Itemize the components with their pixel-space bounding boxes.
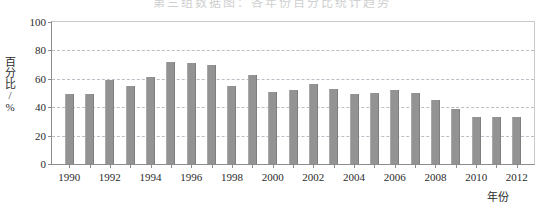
bar	[492, 117, 501, 164]
x-tick-mark	[212, 164, 213, 168]
y-tick-label: 100	[30, 16, 47, 28]
x-tick-mark	[313, 164, 314, 168]
x-tick-mark	[151, 164, 152, 168]
x-tick-mark	[415, 164, 416, 168]
x-tick-mark	[171, 164, 172, 168]
bar	[370, 93, 379, 164]
bar	[248, 75, 257, 164]
x-tick-label: 2012	[506, 171, 528, 183]
x-tick-mark	[273, 164, 274, 168]
x-tick-label: 1998	[221, 171, 243, 183]
bar	[350, 94, 359, 164]
x-tick-mark	[130, 164, 131, 168]
x-tick-mark	[374, 164, 375, 168]
bar	[329, 89, 338, 164]
bar	[472, 117, 481, 164]
x-tick-label: 1994	[140, 171, 162, 183]
x-tick-label: 2006	[384, 171, 406, 183]
x-tick-mark	[110, 164, 111, 168]
x-tick-label: 2008	[424, 171, 446, 183]
y-tick-mark	[48, 164, 52, 165]
x-tick-mark	[354, 164, 355, 168]
x-tick-mark	[69, 164, 70, 168]
bars-group	[52, 22, 534, 164]
x-tick-mark	[395, 164, 396, 168]
bar	[512, 117, 521, 164]
bar	[268, 92, 277, 164]
x-tick-mark	[232, 164, 233, 168]
bar	[207, 65, 216, 164]
x-tick-label: 2002	[302, 171, 324, 183]
y-tick-label: 80	[35, 44, 46, 56]
bar	[289, 90, 298, 164]
x-tick-label: 1990	[58, 171, 80, 183]
bar	[431, 100, 440, 164]
x-tick-mark	[456, 164, 457, 168]
plot-area: 020406080100 199019921994199619982000200…	[51, 21, 535, 165]
bar	[65, 94, 74, 164]
x-tick-label: 2000	[262, 171, 284, 183]
x-axis-title: 年份	[487, 188, 509, 204]
x-tick-mark	[191, 164, 192, 168]
bar	[126, 86, 135, 164]
x-tick-mark	[517, 164, 518, 168]
y-tick-label: 60	[35, 73, 46, 85]
x-tick-label: 2010	[465, 171, 487, 183]
bar	[166, 62, 175, 164]
cropped-title-text: 第三组数据图：各年份百分比统计趋势	[0, 0, 544, 12]
x-tick-mark	[496, 164, 497, 168]
x-tick-label: 1996	[180, 171, 202, 183]
x-tick-mark	[334, 164, 335, 168]
y-tick-label: 20	[35, 130, 46, 142]
bar	[187, 63, 196, 164]
bar	[309, 84, 318, 164]
x-tick-mark	[252, 164, 253, 168]
y-axis-title: 百分比/%	[2, 34, 16, 134]
bar	[390, 90, 399, 164]
y-tick-label: 40	[35, 101, 46, 113]
x-tick-mark	[476, 164, 477, 168]
bar-chart-figure: 第三组数据图：各年份百分比统计趋势 百分比/% 020406080100 199…	[0, 0, 544, 215]
y-tick-label: 0	[41, 158, 47, 170]
x-tick-label: 1992	[99, 171, 121, 183]
x-tick-label: 2004	[343, 171, 365, 183]
x-tick-mark	[90, 164, 91, 168]
bar	[85, 94, 94, 164]
bar	[146, 77, 155, 164]
x-tick-mark	[293, 164, 294, 168]
bar	[411, 93, 420, 164]
x-tick-mark	[435, 164, 436, 168]
bar	[227, 86, 236, 164]
bar	[451, 109, 460, 164]
bar	[105, 80, 114, 164]
